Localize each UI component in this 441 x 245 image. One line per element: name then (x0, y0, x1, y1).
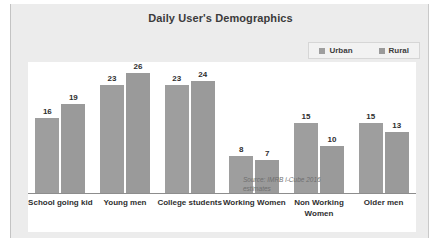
bar-rect[interactable] (385, 132, 409, 193)
category-label: Young men (93, 197, 158, 208)
chart-title: Daily User's Demographics (11, 12, 430, 24)
bar-urban[interactable]: 16 (35, 62, 59, 193)
bar-rural[interactable]: 24 (191, 62, 215, 193)
legend-label-urban: Urban (329, 46, 352, 55)
bar-value-label: 15 (366, 112, 375, 122)
bar-urban[interactable]: 23 (100, 62, 124, 193)
legend-swatch-urban (319, 48, 325, 54)
bar-rect[interactable] (100, 85, 124, 193)
bar-urban[interactable]: 15 (294, 62, 318, 193)
x-axis-line (28, 193, 416, 194)
bar-rural[interactable]: 19 (61, 62, 85, 193)
bar-urban[interactable]: 15 (359, 62, 383, 193)
bar-urban[interactable]: 23 (165, 62, 189, 193)
bar-value-label: 15 (302, 112, 311, 122)
category-label: Working Women (222, 197, 287, 208)
bar-rural[interactable]: 13 (385, 62, 409, 193)
bar-rural[interactable]: 10 (320, 62, 344, 193)
bar-rect[interactable] (61, 104, 85, 193)
bar-value-label: 16 (43, 107, 52, 117)
bar-value-label: 8 (239, 145, 243, 155)
bar-group: 87 (222, 62, 287, 193)
source-annotation-line1: Source: IMRB i-Cube 2016 (243, 176, 347, 185)
bar-value-label: 23 (172, 74, 181, 84)
legend-item-urban[interactable]: Urban (319, 46, 352, 55)
bar-group: 1619 (28, 62, 93, 193)
bar-rect[interactable] (359, 123, 383, 193)
category-label: Non Working Women (287, 197, 352, 219)
bar-value-label: 24 (198, 70, 207, 80)
category-labels: School going kidYoung menCollege student… (28, 197, 416, 229)
bar-value-label: 10 (328, 135, 337, 145)
bar-group: 2324 (157, 62, 222, 193)
legend-label-rural: Rural (389, 46, 409, 55)
bar-rural[interactable]: 26 (126, 62, 150, 193)
bar-rect[interactable] (126, 73, 150, 193)
category-label: School going kid (28, 197, 93, 208)
bar-group: 1513 (351, 62, 416, 193)
bar-rect[interactable] (191, 81, 215, 193)
source-annotation: Source: IMRB i-Cube 2016 estimates (243, 176, 347, 193)
legend-item-rural[interactable]: Rural (379, 46, 409, 55)
bar-value-label: 26 (134, 62, 143, 72)
bar-value-label: 23 (108, 74, 117, 84)
bars-layer: 1619232623248715101513 (28, 62, 416, 193)
chart-legend: Urban Rural (308, 42, 420, 59)
bar-value-label: 19 (69, 93, 78, 103)
bar-value-label: 7 (265, 149, 269, 159)
category-label: Older men (351, 197, 416, 208)
bar-group: 1510 (287, 62, 352, 193)
chart-frame: Daily User's Demographics Urban Rural 16… (10, 4, 429, 238)
category-label: College students (157, 197, 222, 208)
bar-urban[interactable]: 8 (229, 62, 253, 193)
bar-rect[interactable] (165, 85, 189, 193)
legend-swatch-rural (379, 48, 385, 54)
bar-rect[interactable] (35, 118, 59, 193)
source-annotation-line2: estimates (243, 185, 347, 194)
bar-value-label: 13 (392, 121, 401, 131)
bar-group: 2326 (93, 62, 158, 193)
bar-rural[interactable]: 7 (255, 62, 279, 193)
